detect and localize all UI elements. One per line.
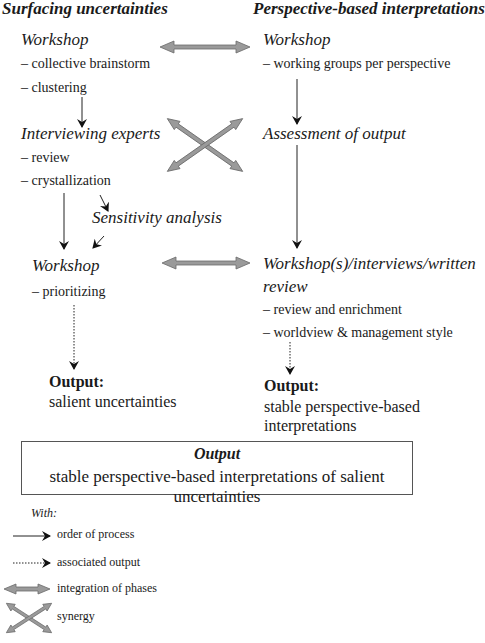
double-arrow-icon [160,41,250,53]
double-arrow-icon [4,584,50,594]
double-arrow-icon [162,257,250,269]
cross-arrows-icon [4,600,54,636]
arrow-sensitivity-to-workshop [93,236,104,248]
cross-arrows-icon [164,115,245,176]
arrow-crystallization-to-sensitivity [100,195,108,211]
